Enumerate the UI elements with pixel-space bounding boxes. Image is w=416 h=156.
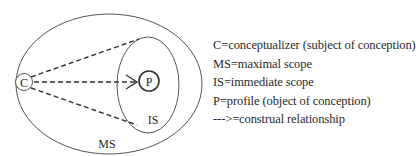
immediate-scope-label: IS <box>148 113 159 127</box>
legend-item-profile: P=profile (object of conception) <box>213 92 416 111</box>
legend: C=conceptualizer (subject of conception)… <box>213 36 416 129</box>
conceptualizer-label: C <box>20 76 28 90</box>
legend-item-immediate-scope: IS=immediate scope <box>213 73 416 92</box>
maximal-scope-label: MS <box>98 137 115 151</box>
construal-diagram: C P IS MS <box>0 0 214 156</box>
legend-item-construal-relationship: --->=construal relationship <box>213 110 416 129</box>
construal-line-lower <box>31 88 137 125</box>
legend-item-conceptualizer: C=conceptualizer (subject of conception) <box>213 36 416 55</box>
legend-item-maximal-scope: MS=maximal scope <box>213 55 416 74</box>
maximal-scope-ellipse <box>16 14 202 154</box>
profile-label: P <box>146 75 153 89</box>
